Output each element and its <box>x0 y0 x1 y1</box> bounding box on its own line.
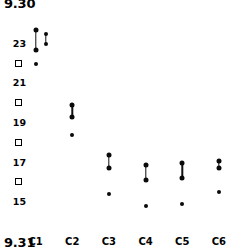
data-point-single-c6 <box>217 190 221 194</box>
x-tick-label-c6: C6 <box>212 236 226 247</box>
data-point-low-c6 <box>216 166 221 171</box>
x-tick-label-c5: C5 <box>175 236 189 247</box>
x-tick-label-c2: C2 <box>65 236 79 247</box>
data-point-high-c6 <box>216 158 221 163</box>
data-point-single-c1 <box>34 62 38 66</box>
y-axis: 2321191715 <box>0 18 26 218</box>
y-tick-minor-square-icon <box>15 139 22 146</box>
y-tick-label: 23 <box>4 39 26 49</box>
y-tick-label: 15 <box>4 197 26 207</box>
y-tick-minor-square-icon <box>15 178 22 185</box>
data-point-single-c4 <box>144 204 148 208</box>
data-point-low-c5 <box>180 176 185 181</box>
data-point-low-c2 <box>70 115 75 120</box>
data-point-high-c2 <box>70 103 75 108</box>
y-tick-minor-square-icon <box>15 99 22 106</box>
y-tick-label: 19 <box>4 118 26 128</box>
data-point-single-c2 <box>70 133 74 137</box>
y-tick-minor-square-icon <box>15 60 22 67</box>
x-axis: C1C2C3C4C5C6 <box>0 236 246 252</box>
data-point-high-c1-secondary <box>44 32 48 36</box>
data-point-high-c5 <box>180 160 185 165</box>
figure-caption-top: 9.30 <box>4 0 35 10</box>
data-point-single-c3 <box>107 192 111 196</box>
data-point-low-c1 <box>33 47 38 52</box>
y-tick-label: 21 <box>4 78 26 88</box>
data-point-low-c4 <box>143 178 148 183</box>
x-tick-label-c3: C3 <box>102 236 116 247</box>
data-point-low-c3 <box>106 166 111 171</box>
plot-area: 2321191715 C1C2C3C4C5C6 <box>0 18 246 218</box>
data-point-high-c1 <box>33 27 38 32</box>
data-point-high-c4 <box>143 162 148 167</box>
data-point-low-c1-secondary <box>44 42 48 46</box>
figure-caption-bottom: 9.31 <box>4 236 35 249</box>
data-point-single-c5 <box>180 202 184 206</box>
data-point-high-c3 <box>106 152 111 157</box>
figure-screenshot: 9.30 2321191715 C1C2C3C4C5C6 9.31 <box>0 0 246 252</box>
x-tick-label-c4: C4 <box>138 236 152 247</box>
y-tick-label: 17 <box>4 158 26 168</box>
